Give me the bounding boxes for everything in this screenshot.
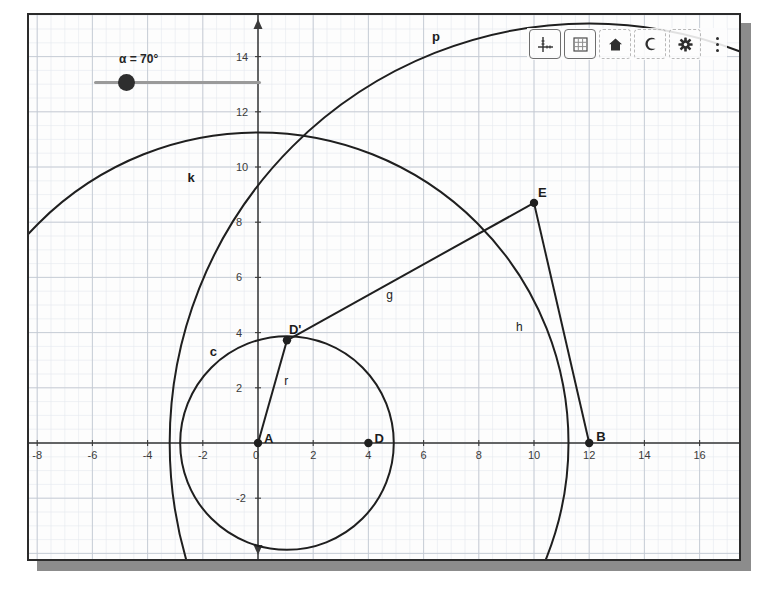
grid-toggle-button[interactable] — [564, 29, 596, 59]
axes-toggle-button[interactable] — [529, 29, 561, 59]
x-tick-label-4: 4 — [365, 449, 371, 461]
segment-label-r: r — [284, 374, 288, 388]
segment-g — [287, 203, 534, 340]
point-Dprime — [283, 336, 291, 344]
axes-icon — [536, 35, 555, 54]
home-icon — [607, 36, 624, 53]
menu-dot — [716, 37, 719, 40]
point-label-D: D — [374, 431, 383, 446]
y-tick-label-4: 4 — [236, 327, 242, 339]
x-tick-label-0: 0 — [253, 449, 259, 461]
y-tick-label-12: 12 — [236, 106, 248, 118]
point-label-B: B — [596, 429, 605, 444]
x-tick-label-2: 2 — [310, 449, 316, 461]
y-tick-label-2: 2 — [236, 382, 242, 394]
menu-dot — [716, 49, 719, 52]
grid-icon — [571, 35, 590, 54]
geogebra-applet-frame: -8-6-4-20246810121416-22468101214ADBED'c… — [27, 13, 741, 561]
style-toolbar[interactable] — [527, 28, 727, 60]
y-tick-label-10: 10 — [236, 161, 248, 173]
slider-knob[interactable] — [118, 74, 135, 91]
y-tick-label--2: -2 — [236, 492, 246, 504]
x-tick-label-10: 10 — [528, 449, 540, 461]
graphics-view[interactable]: -8-6-4-20246810121416-22468101214ADBED'c… — [29, 15, 739, 559]
point-label-A: A — [264, 431, 273, 446]
x-tick-label-16: 16 — [693, 449, 705, 461]
x-tick-label--2: -2 — [198, 449, 208, 461]
alpha-slider[interactable]: α = 70° — [89, 52, 264, 92]
undo-icon — [641, 35, 659, 53]
more-options-menu-button[interactable] — [709, 30, 725, 58]
segment-label-g: g — [386, 288, 393, 302]
circle-p — [170, 23, 739, 559]
screenshot-root: -8-6-4-20246810121416-22468101214ADBED'c… — [0, 0, 767, 593]
x-tick-label-14: 14 — [638, 449, 650, 461]
home-view-button[interactable] — [599, 29, 631, 59]
settings-button[interactable] — [669, 29, 701, 59]
point-E — [530, 199, 538, 207]
segment-r — [258, 340, 287, 443]
slider-caption: α = 70° — [119, 52, 158, 66]
x-tick-label--4: -4 — [143, 449, 153, 461]
curve-label-p: p — [432, 29, 440, 44]
point-label-E: E — [538, 185, 547, 200]
x-tick-label-6: 6 — [421, 449, 427, 461]
point-B — [585, 439, 593, 447]
point-label-Dprime: D' — [289, 322, 301, 337]
x-tick-label--6: -6 — [88, 449, 98, 461]
x-tick-label--8: -8 — [32, 449, 42, 461]
circle-c — [180, 336, 394, 550]
x-tick-label-8: 8 — [476, 449, 482, 461]
menu-dot — [716, 43, 719, 46]
circle-k — [29, 133, 569, 560]
segment-label-h: h — [516, 320, 523, 334]
point-D — [364, 439, 372, 447]
x-tick-label-12: 12 — [583, 449, 595, 461]
point-A — [254, 439, 262, 447]
geometry-objects — [29, 15, 739, 559]
curve-label-k: k — [188, 170, 195, 185]
segment-h — [534, 203, 589, 443]
y-tick-label-8: 8 — [236, 216, 242, 228]
curve-label-c: c — [210, 344, 217, 359]
y-tick-label-6: 6 — [236, 271, 242, 283]
undo-button[interactable] — [634, 29, 666, 59]
gear-icon — [677, 36, 694, 53]
